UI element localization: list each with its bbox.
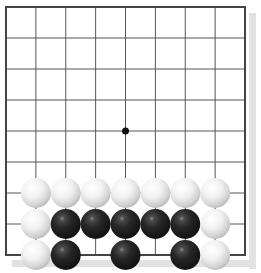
black-stone	[111, 209, 141, 239]
black-stone	[140, 209, 170, 239]
white-stone	[21, 240, 51, 270]
star-point-icon	[122, 128, 129, 135]
white-stone	[200, 178, 230, 208]
black-stone	[111, 240, 141, 270]
white-stone	[200, 209, 230, 239]
black-stone	[51, 240, 81, 270]
white-stone	[140, 178, 170, 208]
right-shadow	[249, 13, 256, 269]
white-stone	[111, 178, 141, 208]
white-stone	[21, 209, 51, 239]
black-stone	[81, 209, 111, 239]
black-stone	[170, 209, 200, 239]
stones	[21, 178, 230, 270]
white-stone	[51, 178, 81, 208]
white-stone	[81, 178, 111, 208]
black-stone	[51, 209, 81, 239]
black-stone	[170, 240, 200, 270]
star-points	[122, 128, 129, 135]
white-stone	[21, 178, 51, 208]
go-board[interactable]	[0, 0, 261, 273]
white-stone	[200, 240, 230, 270]
white-stone	[170, 178, 200, 208]
